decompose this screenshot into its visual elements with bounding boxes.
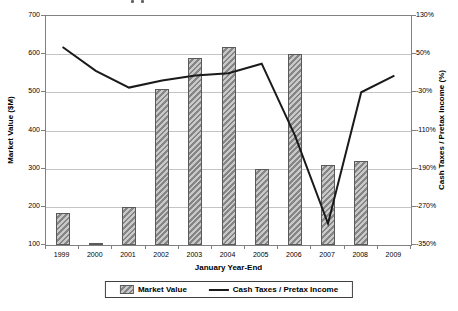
right-axis-tick-mark [412,168,416,169]
bar-swatch-icon [120,285,134,294]
right-axis-tick-label: 50% [416,49,456,57]
right-axis-tick-label: 130% [416,11,456,19]
left-axis-tick-mark [41,206,45,207]
left-axis-tick-mark [41,53,45,54]
x-axis-tick-mark [310,246,311,249]
x-axis-tick-label: 2008 [343,251,377,258]
right-axis-tick-mark [412,206,416,207]
right-axis-tick-label: -270% [416,202,456,210]
left-axis-tick-mark [41,91,45,92]
x-axis-tick-mark [45,246,46,249]
left-axis-tick-mark [41,15,45,16]
legend-label-market-value: Market Value [138,285,187,294]
right-axis-tick-mark [412,91,416,92]
right-axis-tick-label: -110% [416,126,456,134]
x-axis-tick-mark [377,246,378,249]
left-axis-tick-mark [41,130,45,131]
legend-item-market-value: Market Value [120,285,187,294]
left-axis-tick-label: 200 [0,202,40,210]
x-axis-tick-mark [244,246,245,249]
x-axis-tick-label: 2009 [376,251,410,258]
x-axis-title: January Year-End [45,263,412,272]
left-axis-tick-label: 100 [0,240,40,248]
x-axis-tick-mark [277,246,278,249]
x-axis-tick-mark [78,246,79,249]
x-axis-tick-mark [178,246,179,249]
right-axis-tick-mark [412,130,416,131]
left-axis-tick-mark [41,168,45,169]
cash-taxes-line [46,16,411,245]
right-axis-tick-label: -190% [416,164,456,172]
x-axis-tick-label: 2004 [211,251,245,258]
x-axis-tick-label: 2005 [244,251,278,258]
x-axis-tick-label: 2000 [78,251,112,258]
right-axis-tick-label: -30% [416,87,456,95]
x-axis-tick-mark [211,246,212,249]
left-axis-tick-label: 300 [0,164,40,172]
x-axis-tick-label: 2003 [177,251,211,258]
legend-label-cash-taxes: Cash Taxes / Pretax Income [233,285,338,294]
x-axis-tick-label: 2007 [310,251,344,258]
left-axis-tick-mark [41,244,45,245]
x-axis-tick-mark [344,246,345,249]
line-swatch-icon [209,289,229,291]
x-axis-tick-mark [111,246,112,249]
left-axis-tick-label: 600 [0,49,40,57]
right-axis-tick-mark [412,53,416,54]
right-axis-tick-mark [412,15,416,16]
x-axis-tick-label: 1999 [45,251,79,258]
legend-item-cash-taxes: Cash Taxes / Pretax Income [209,285,338,294]
right-axis-tick-mark [412,244,416,245]
x-axis-tick-label: 2001 [111,251,145,258]
x-axis-tick-mark [410,246,411,249]
left-axis-tick-label: 400 [0,126,40,134]
x-axis-tick-label: 2006 [277,251,311,258]
x-axis-tick-mark [145,246,146,249]
cropped-title-fragment [131,0,134,3]
x-axis-tick-label: 2002 [144,251,178,258]
left-axis-tick-label: 700 [0,11,40,19]
plot-area [45,15,412,246]
left-axis-tick-label: 500 [0,87,40,95]
combo-chart: Market Value ($M) Cash Taxes / Pretax In… [0,0,458,311]
cropped-title-fragment [141,0,144,3]
right-axis-tick-label: -350% [416,240,456,248]
legend: Market Value Cash Taxes / Pretax Income [105,281,353,298]
